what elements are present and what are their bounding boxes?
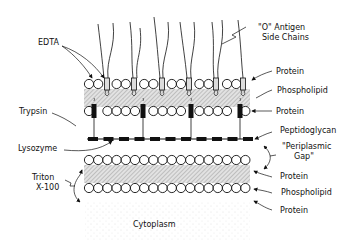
peptidoglycan-layer (87, 137, 253, 141)
label-gap: Gap" (294, 152, 314, 161)
label-triton: Triton (31, 173, 54, 182)
label-peptidoglycan: Peptidoglycan (280, 126, 336, 135)
o-antigen-chains (98, 17, 243, 78)
label-cytoplasm: Cytoplasm (133, 220, 176, 229)
label-outer-phospholipid: Phospholipid (277, 86, 328, 95)
outer-membrane (84, 78, 250, 139)
label-outer-protein-top: Protein (276, 67, 304, 76)
outer-bottom-protein-circles (84, 106, 250, 115)
inner-bottom-protein-circles (84, 183, 250, 192)
inner-top-protein-circles (84, 155, 250, 164)
outer-phospholipid-layer (84, 89, 250, 107)
label-side-chains: Side Chains (262, 33, 309, 42)
cell-envelope-diagram: "O" Antigen Side Chains EDTA Protein Pho… (0, 0, 349, 240)
label-x100: X-100 (36, 183, 59, 192)
label-periplasmic: "Periplasmic (282, 142, 331, 151)
label-inner-protein-bottom: Protein (280, 206, 308, 215)
label-edta: EDTA (38, 38, 59, 47)
label-outer-protein-bottom: Protein (276, 107, 304, 116)
labels: "O" Antigen Side Chains EDTA Protein Pho… (18, 23, 336, 229)
label-trypsin: Trypsin (18, 107, 47, 116)
inner-membrane (84, 155, 250, 192)
label-inner-protein-top: Protein (280, 172, 308, 181)
inner-phospholipid-layer (84, 165, 250, 183)
label-lysozyme: Lysozyme (18, 144, 57, 153)
label-o-antigen: "O" Antigen (258, 23, 305, 32)
label-inner-phospholipid: Phospholipid (281, 188, 332, 197)
